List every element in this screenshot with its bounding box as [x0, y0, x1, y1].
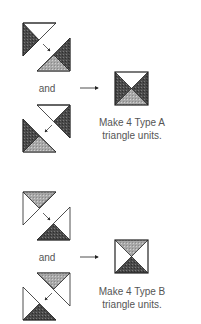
type-b-bottom-pair — [23, 273, 70, 320]
half-square-unit — [37, 105, 70, 138]
type-a-top-pair — [23, 23, 70, 71]
arrow-icon — [45, 293, 52, 300]
half-square-unit — [23, 287, 56, 320]
half-square-unit — [37, 38, 70, 71]
type-a-bottom-pair — [23, 105, 70, 152]
diagram-canvas — [0, 0, 201, 324]
caption-b-line1: Make 4 Type B — [88, 286, 176, 298]
half-square-unit — [37, 207, 70, 240]
half-square-unit — [23, 119, 56, 152]
type-a-result-block — [115, 72, 148, 105]
half-square-unit — [23, 23, 56, 56]
half-square-unit — [23, 192, 56, 225]
caption-a-line2: triangle units. — [88, 130, 176, 142]
arrow-icon — [43, 213, 50, 220]
caption-a-line1: Make 4 Type A — [88, 117, 176, 129]
type-b-top-pair — [23, 192, 70, 240]
connector-label-a: and — [33, 83, 61, 95]
caption-b-line2: triangle units. — [88, 299, 176, 311]
arrow-icon — [43, 44, 50, 51]
type-b-result-block — [115, 240, 148, 273]
connector-label-b: and — [33, 252, 61, 264]
half-square-unit — [37, 273, 70, 306]
arrow-icon — [45, 125, 52, 132]
